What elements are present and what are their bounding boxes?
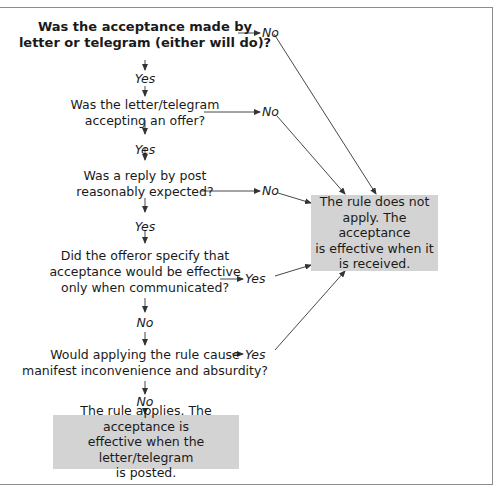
question-5-line-1: Would applying the rule cause <box>22 347 268 363</box>
question-3-line-2: reasonably expected? <box>76 184 213 200</box>
outcome-not-apply-line-2: apply. The acceptance <box>311 210 438 241</box>
outcome-applies-line-2: effective when the letter/telegram <box>53 434 239 465</box>
answer-label-q1-yes: Yes <box>135 72 155 86</box>
outcome-rule-does-not-apply: The rule does not apply. The acceptance … <box>311 195 438 271</box>
question-4-line-2: acceptance would be effective <box>49 264 240 280</box>
outcome-rule-applies: The rule applies. The acceptance is effe… <box>53 415 239 469</box>
outcome-not-apply-line-1: The rule does not <box>311 194 438 210</box>
outcome-applies-line-3: is posted. <box>53 465 239 481</box>
outcome-not-apply-line-4: is received. <box>311 256 438 272</box>
question-5-line-2: manifest inconvenience and absurdity? <box>22 363 268 379</box>
question-2-line-2: accepting an offer? <box>71 113 220 129</box>
answer-label-q4-no: No <box>137 316 154 330</box>
frame-bottom-border <box>0 484 493 485</box>
answer-label-q2-no: No <box>262 105 279 119</box>
frame-right-border <box>492 7 493 485</box>
answer-label-q5-yes: Yes <box>245 348 265 362</box>
answer-label-q1-no: No <box>262 26 279 40</box>
question-1-line-2: letter or telegram (either will do)? <box>19 35 271 51</box>
answer-label-q3-yes: Yes <box>135 220 155 234</box>
question-3: Was a reply by post reasonably expected? <box>76 168 213 200</box>
question-3-line-1: Was a reply by post <box>76 168 213 184</box>
outcome-not-apply-line-3: is effective when it <box>311 241 438 257</box>
question-1-line-1: Was the acceptance made by <box>19 19 271 35</box>
frame-top-border <box>0 7 493 8</box>
question-2: Was the letter/telegram accepting an off… <box>71 97 220 129</box>
answer-label-q3-no: No <box>262 184 279 198</box>
question-5: Would applying the rule cause manifest i… <box>22 347 268 379</box>
question-2-line-1: Was the letter/telegram <box>71 97 220 113</box>
question-4-line-3: only when communicated? <box>49 280 240 296</box>
question-1: Was the acceptance made by letter or tel… <box>19 19 271 51</box>
answer-label-q2-yes: Yes <box>135 143 155 157</box>
answer-label-q4-yes: Yes <box>245 272 265 286</box>
question-4-line-1: Did the offeror specify that <box>49 248 240 264</box>
question-4: Did the offeror specify that acceptance … <box>49 248 240 296</box>
outcome-applies-line-1: The rule applies. The acceptance is <box>53 403 239 434</box>
